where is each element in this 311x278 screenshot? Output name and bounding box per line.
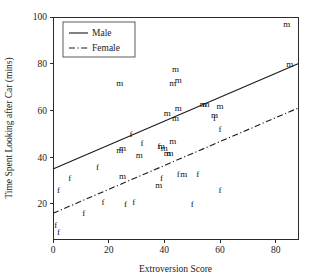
axis-titles-group: Extroversion ScoreTime Spent Looking aft… [4, 57, 212, 274]
x-axis-title: Extroversion Score [139, 264, 212, 274]
data-point-f: f [102, 197, 105, 207]
data-point-m: m [286, 59, 293, 69]
data-point-m: m [116, 78, 123, 88]
data-point-m: m [116, 145, 123, 155]
data-point-m: m [172, 64, 179, 74]
data-point-m: m [180, 169, 187, 179]
data-point-f: f [213, 113, 216, 123]
data-point-f: f [191, 199, 194, 209]
data-point-f: f [141, 138, 144, 148]
data-point-m: m [169, 136, 176, 146]
data-point-m: m [164, 108, 171, 118]
data-point-f: f [57, 227, 60, 237]
x-tick-label: 0 [51, 245, 56, 255]
y-tick-label: 60 [38, 106, 48, 116]
legend-item-male-label: Male [92, 28, 112, 38]
y-axis-title: Time Spent Looking after Car (mins) [4, 57, 15, 198]
x-tick-label: 60 [215, 245, 225, 255]
data-point-f: f [219, 185, 222, 195]
y-tick-label: 40 [38, 153, 48, 163]
x-tick-label: 80 [271, 245, 281, 255]
x-tick-label: 40 [160, 245, 170, 255]
plot-canvas: 02040608020406080100 mmmmmmmmmmmmmmmmmmm… [0, 0, 311, 278]
data-point-f: f [160, 173, 163, 183]
y-tick-label: 80 [38, 59, 48, 69]
data-point-m: m [283, 19, 290, 29]
data-point-f: f [219, 124, 222, 134]
data-point-f: f [129, 129, 132, 139]
regression-line-female [53, 108, 298, 213]
data-point-m: m [203, 99, 210, 109]
data-point-f: f [82, 208, 85, 218]
data-point-f: f [177, 169, 180, 179]
data-point-f: f [157, 141, 160, 151]
scatter-plot-figure: 02040608020406080100 mmmmmmmmmmmmmmmmmmm… [0, 0, 311, 278]
y-tick-label: 20 [38, 199, 48, 209]
legend-item-female-label: Female [92, 43, 120, 53]
y-tick-label: 100 [33, 12, 48, 22]
x-tick-label: 20 [104, 245, 114, 255]
data-point-m: m [119, 171, 126, 181]
data-point-f: f [57, 185, 60, 195]
data-point-f: f [68, 173, 71, 183]
data-point-m: m [172, 113, 179, 123]
chart-legend: MaleFemale [63, 22, 135, 57]
data-point-f: f [124, 199, 127, 209]
data-point-f: f [196, 169, 199, 179]
data-point-m: m [136, 150, 143, 160]
data-point-m: m [166, 148, 173, 158]
data-point-f: f [132, 197, 135, 207]
data-point-m: m [175, 75, 182, 85]
data-point-f: f [96, 162, 99, 172]
